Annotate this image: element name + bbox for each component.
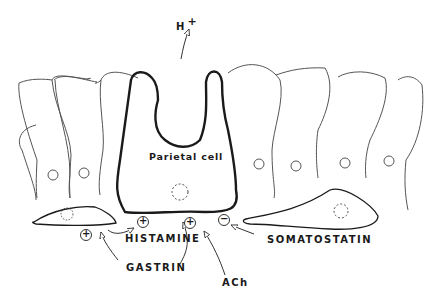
gastrin-arrow-left: [101, 232, 118, 260]
epithelial-cell-right-3: [338, 72, 386, 178]
d-cell-nucleus: [334, 204, 348, 218]
epithelial-cell-right-2: [276, 68, 330, 178]
nucleus-left-1: [48, 170, 58, 180]
parietal-cell-label: Parietal cell: [149, 151, 223, 162]
somatostatin-label: SOMATOSTATIN: [267, 234, 372, 245]
gastrin-center-sign: +: [186, 216, 194, 227]
ach-label: ACh: [222, 277, 249, 288]
parietal-cell-nucleus: [172, 184, 188, 200]
epithelial-cell-left-1: [19, 125, 36, 200]
nucleus-right-4: [384, 156, 394, 166]
d-cell: [243, 189, 378, 229]
somatostatin-sign: −: [220, 213, 228, 224]
nucleus-left-2: [79, 168, 89, 178]
h-plus-charge: +: [187, 15, 196, 28]
ecl-cell: [33, 207, 116, 226]
h-plus-arrow: [181, 29, 189, 59]
parietal-cell-outline: [117, 72, 237, 213]
gastrin-left-sign: +: [82, 228, 90, 239]
histamine-label: HISTAMINE: [125, 233, 200, 244]
nucleus-right-2: [291, 161, 301, 171]
h-plus-symbol: H: [176, 21, 184, 32]
histamine-sign: +: [139, 215, 147, 226]
nucleus-right-3: [340, 158, 350, 168]
ach-arrow: [204, 231, 225, 275]
h-plus-label: H+: [176, 16, 197, 32]
somatostatin-arrow: [231, 225, 254, 234]
gastrin-label: GASTRIN: [126, 262, 186, 273]
diagram-canvas: [0, 0, 444, 298]
nucleus-right-1: [254, 159, 264, 169]
epithelial-cell-right-4: [398, 77, 423, 210]
